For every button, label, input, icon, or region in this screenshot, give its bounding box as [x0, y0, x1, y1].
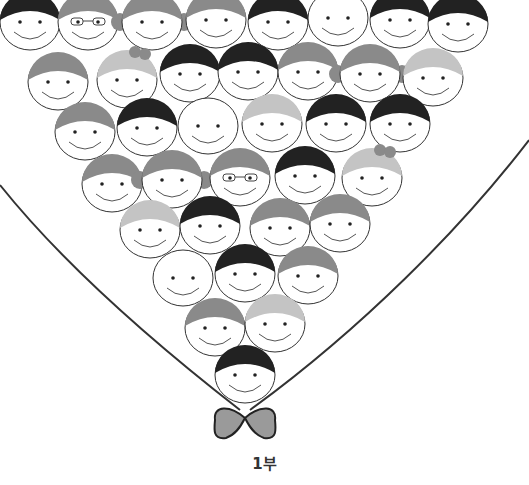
face [428, 0, 488, 52]
face [245, 294, 305, 352]
face [370, 94, 430, 152]
face [306, 94, 366, 152]
face [117, 98, 177, 156]
caption: 1부 [0, 452, 529, 473]
face [278, 42, 338, 100]
face [0, 0, 60, 50]
face [55, 102, 115, 160]
face [310, 194, 370, 252]
face [186, 0, 246, 48]
face [210, 148, 270, 206]
class-photo-illustration [0, 0, 529, 485]
face [120, 200, 180, 258]
face [275, 146, 335, 204]
face [242, 94, 302, 152]
faces-group [0, 0, 488, 403]
face [248, 0, 308, 50]
face [329, 44, 411, 102]
face [218, 42, 278, 100]
face [370, 0, 430, 48]
face [153, 250, 213, 306]
face [215, 345, 275, 403]
face [180, 196, 240, 254]
face [278, 246, 338, 304]
face [308, 0, 368, 46]
face [58, 0, 118, 50]
bow-tie-icon [214, 408, 275, 438]
face [215, 244, 275, 302]
face [160, 44, 220, 102]
face [111, 0, 193, 50]
face [28, 52, 88, 110]
face [178, 98, 238, 154]
